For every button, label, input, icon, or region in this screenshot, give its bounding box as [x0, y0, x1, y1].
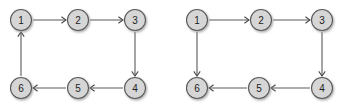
directed-path-graph-right-nodes: 123456 [187, 10, 333, 99]
node-6[interactable]: 6 [187, 78, 208, 99]
node-circle-1 [11, 10, 32, 31]
graph-canvas: 123456123456 [0, 0, 349, 106]
edges-layer [18, 17, 325, 91]
node-1[interactable]: 1 [187, 10, 208, 31]
node-3[interactable]: 3 [125, 10, 146, 31]
node-2[interactable]: 2 [251, 10, 272, 31]
node-circle-4 [312, 78, 333, 99]
directed-cycle-graph-left-nodes: 123456 [11, 10, 146, 99]
node-circle-2 [68, 10, 89, 31]
node-circle-3 [312, 10, 333, 31]
node-circle-2 [251, 10, 272, 31]
node-circle-5 [249, 78, 270, 99]
node-2[interactable]: 2 [68, 10, 89, 31]
node-circle-6 [187, 78, 208, 99]
node-3[interactable]: 3 [312, 10, 333, 31]
node-1[interactable]: 1 [11, 10, 32, 31]
node-circle-3 [125, 10, 146, 31]
nodes-layer: 123456123456 [11, 10, 333, 99]
node-circle-4 [125, 78, 146, 99]
node-circle-1 [187, 10, 208, 31]
node-circle-6 [11, 78, 32, 99]
graph-figure: 123456123456 [0, 0, 349, 106]
node-6[interactable]: 6 [11, 78, 32, 99]
node-circle-5 [68, 78, 89, 99]
node-5[interactable]: 5 [249, 78, 270, 99]
node-4[interactable]: 4 [125, 78, 146, 99]
node-4[interactable]: 4 [312, 78, 333, 99]
node-5[interactable]: 5 [68, 78, 89, 99]
